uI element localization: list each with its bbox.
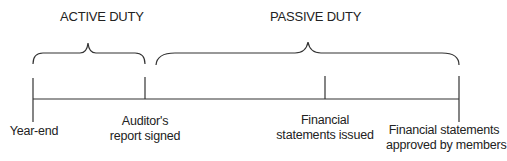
event-label-line1: Auditor's <box>100 114 190 129</box>
active-duty-label: ACTIVE DUTY <box>60 9 144 24</box>
event-auditors-report-signed: Auditor's report signed <box>100 114 190 144</box>
event-label-line2: approved by members <box>386 138 502 153</box>
event-label-line1: Financial statements <box>386 123 502 138</box>
passive-duty-label: PASSIVE DUTY <box>270 9 361 24</box>
event-label-line2: report signed <box>100 129 190 144</box>
event-label-line2: statements issued <box>270 128 380 143</box>
event-fs-approved: Financial statements approved by members <box>386 123 502 153</box>
passive-duty-brace <box>156 42 459 65</box>
event-fs-issued: Financial statements issued <box>270 113 380 143</box>
event-label-line1: Year-end <box>8 124 60 139</box>
event-label-line1: Financial <box>270 113 380 128</box>
event-year-end: Year-end <box>8 124 60 139</box>
active-duty-brace <box>33 43 145 64</box>
